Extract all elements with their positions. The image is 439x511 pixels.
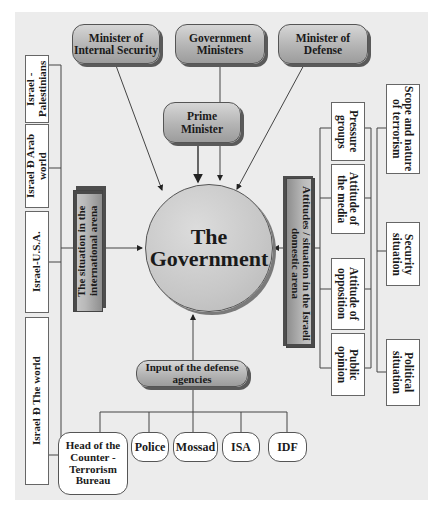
factor-label: Political situation xyxy=(391,340,415,405)
agency-counter-terrorism: Head of the Counter - Terrorism Bureau xyxy=(58,432,128,495)
factor-label: Attitude of the media xyxy=(336,165,360,233)
agency-label: IDF xyxy=(277,441,298,454)
factor-attitude-media: Attitude of the media xyxy=(331,164,365,234)
domestic-arena-bar: Attitudes / situation in the Israeli dom… xyxy=(286,178,315,348)
domestic-arena-label: Attitudes / situation in the Israeli dom… xyxy=(289,179,312,347)
factor-label: Scope and nature of terrorism xyxy=(391,85,415,173)
agency-isa: ISA xyxy=(222,432,260,462)
agency-label: ISA xyxy=(231,441,251,454)
agency-police: Police xyxy=(131,432,169,462)
factor-label: Pressure groups xyxy=(336,103,360,160)
factor-label: Security situation xyxy=(391,223,415,285)
minister-defense-label: Minister of Defense xyxy=(279,32,367,56)
government-circle: The Government xyxy=(145,184,273,312)
government-ministers-node: Government Ministers xyxy=(175,24,265,64)
factor-attitude-opposition: Attitude of opposition xyxy=(331,258,365,330)
relation-label: Israel - Palestinians xyxy=(25,56,48,122)
factor-political-situation: Political situation xyxy=(386,339,420,406)
relation-label: Israel Ð Arab world xyxy=(25,125,48,207)
agency-mossad: Mossad xyxy=(173,432,218,462)
agency-label: Police xyxy=(135,441,166,454)
defense-input-label: Input of the defense agencies xyxy=(137,362,247,385)
prime-minister-label: Prime Minister xyxy=(176,110,228,134)
factor-label: Public opinion xyxy=(336,334,360,395)
minister-defense-node: Minister of Defense xyxy=(278,24,368,64)
agency-idf: IDF xyxy=(268,432,307,462)
relation-israel-palestinians: Israel - Palestinians xyxy=(25,55,49,123)
international-arena-bar: The situation in the international arena xyxy=(73,190,103,312)
factor-public-opinion: Public opinion xyxy=(331,333,365,396)
international-arena-label: The situation in the international arena xyxy=(76,191,99,311)
relation-label: Israel-U.S.A. xyxy=(31,232,43,293)
government-ministers-label: Government Ministers xyxy=(176,32,264,56)
factor-label: Attitude of opposition xyxy=(336,259,360,329)
factor-security-situation: Security situation xyxy=(386,222,420,286)
minister-internal-security-label: Minister of Internal Security xyxy=(73,32,159,56)
defense-input-node: Input of the defense agencies xyxy=(136,360,248,387)
relation-israel-arab-world: Israel Ð Arab world xyxy=(25,124,49,208)
agency-label: Head of the Counter - Terrorism Bureau xyxy=(61,440,125,486)
minister-internal-security-node: Minister of Internal Security xyxy=(72,24,160,64)
agency-label: Mossad xyxy=(176,441,215,454)
relation-label: Israel Ð The world xyxy=(31,357,43,446)
relation-israel-usa: Israel-U.S.A. xyxy=(25,211,49,313)
prime-minister-node: Prime Minister xyxy=(163,102,241,143)
government-title-line1: The xyxy=(191,226,228,248)
factor-pressure-groups: Pressure groups xyxy=(331,102,365,161)
factor-scope-terrorism: Scope and nature of terrorism xyxy=(386,84,420,174)
relation-israel-world: Israel Ð The world xyxy=(25,317,49,485)
government-title-line2: Government xyxy=(150,248,269,270)
